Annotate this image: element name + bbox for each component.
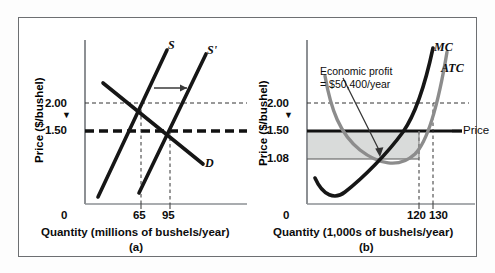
figure-root: Price ($/bushel) 2.00 ▼ 1.50 0 65 95 S S… <box>0 0 495 273</box>
panel-b-xtick-130: 130 <box>429 209 448 221</box>
panel-a-curve-supply-S-prime <box>139 54 206 193</box>
panel-a-ytick-arrow-down-icon: ▼ <box>62 111 71 120</box>
panel-a-letter: (a) <box>129 241 143 253</box>
panel-a-xtick-65: 65 <box>133 209 145 221</box>
panel-a-ytick-150: 1.50 <box>45 124 67 136</box>
panel-a-x-axis-title: Quantity (millions of bushels/year) <box>41 226 230 238</box>
panel-a-shift-arrow-icon <box>154 85 187 92</box>
panel-b-letter: (b) <box>359 241 374 253</box>
figure-frame: Price ($/bushel) 2.00 ▼ 1.50 0 65 95 S S… <box>18 17 477 257</box>
panel-b: Price ($/bushel) 2.00 ▼ 1.50 1.08 0 120 … <box>247 18 475 255</box>
panel-b-ytick-200: 2.00 <box>267 97 289 109</box>
panel-b-price-label: Price <box>463 124 489 136</box>
panel-a: Price ($/bushel) 2.00 ▼ 1.50 0 65 95 S S… <box>19 18 247 255</box>
panel-b-origin-label: 0 <box>283 209 289 221</box>
panel-b-label-atc: ATC <box>441 61 464 76</box>
panel-a-label-supply-S: S <box>168 38 175 53</box>
panel-b-economic-profit-annotation: Economic profit = $50,400/year <box>320 65 392 90</box>
panel-b-annotation-line-1: Economic profit <box>320 65 392 78</box>
panel-b-ytick-108: 1.08 <box>267 152 289 164</box>
panel-a-y-axis-title: Price ($/bushel) <box>33 77 45 163</box>
panel-b-annotation-line-2: = $50,400/year <box>320 78 392 91</box>
panel-b-ytick-arrow-down-icon: ▼ <box>284 111 293 120</box>
panel-b-xtick-120: 120 <box>407 209 426 221</box>
panel-a-curve-supply-S <box>98 50 167 197</box>
panel-a-xtick-95: 95 <box>162 209 174 221</box>
panel-b-x-axis-title: Quantity (1,000s of bushels/year) <box>273 226 453 238</box>
panel-a-label-demand-D: D <box>205 156 214 171</box>
panel-a-ytick-200: 2.00 <box>45 97 67 109</box>
panel-b-label-mc: MC <box>434 40 453 55</box>
panel-b-ytick-150: 1.50 <box>267 124 289 136</box>
panel-a-label-supply-S-prime: S' <box>207 43 217 58</box>
panel-a-origin-label: 0 <box>61 209 67 221</box>
